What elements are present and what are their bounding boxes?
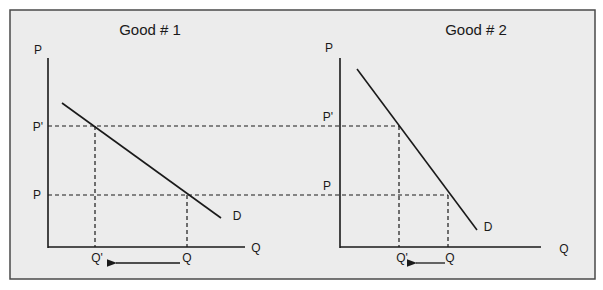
q-low-label: Q' [396,251,408,265]
p-low-label: P [33,188,41,202]
diagram-stage: Good # 1 P Q P' P D Q' Q Good # 2 P Q P'… [0,0,603,290]
demand-label: D [233,209,242,223]
x-axis-label: Q [559,242,568,256]
x-axis-label: Q [251,241,260,255]
q-high-label: Q [182,251,191,265]
demand-label: D [484,220,493,234]
q-high-label: Q [445,251,454,265]
y-axis-label: P [325,41,333,55]
chart-title-good-2: Good # 2 [445,21,507,38]
p-low-label: P [323,179,331,193]
diagram-frame [10,10,595,279]
demand-elasticity-diagram: Good # 1 P Q P' P D Q' Q Good # 2 P Q P'… [0,0,603,290]
p-high-label: P' [33,120,43,134]
chart-title-good-1: Good # 1 [119,21,181,38]
y-axis-label: P [34,43,42,57]
p-high-label: P' [323,110,333,124]
q-low-label: Q' [91,251,103,265]
